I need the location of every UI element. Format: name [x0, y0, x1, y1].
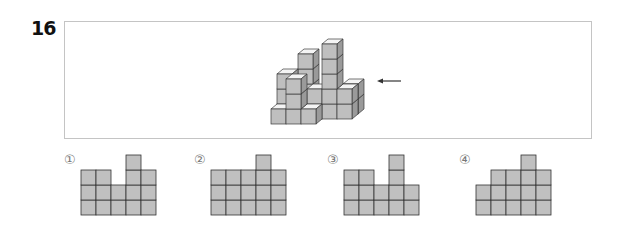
grid-cell	[491, 200, 506, 215]
grid-cell	[344, 170, 359, 185]
grid-cell	[389, 200, 404, 215]
option-3[interactable]: ③	[327, 150, 437, 225]
grid-cell	[344, 185, 359, 200]
grid-cell	[389, 155, 404, 170]
grid-cell	[491, 170, 506, 185]
grid-cell	[506, 200, 521, 215]
grid-cell	[126, 185, 141, 200]
option-1-grid	[64, 150, 174, 225]
question-number: 16	[31, 17, 55, 39]
grid-cell	[344, 200, 359, 215]
grid-cell	[126, 200, 141, 215]
grid-cell	[359, 185, 374, 200]
unit-cube	[301, 104, 322, 124]
grid-cell	[374, 200, 389, 215]
grid-cell	[256, 200, 271, 215]
grid-cell	[536, 170, 551, 185]
grid-cell	[96, 185, 111, 200]
grid-cell	[211, 185, 226, 200]
grid-cell	[141, 185, 156, 200]
grid-cell	[241, 185, 256, 200]
option-2-grid	[194, 150, 304, 225]
grid-cell	[256, 185, 271, 200]
grid-cell	[536, 200, 551, 215]
grid-cell	[359, 200, 374, 215]
grid-cell	[81, 170, 96, 185]
grid-cell	[404, 200, 419, 215]
grid-cell	[211, 170, 226, 185]
option-1[interactable]: ①	[64, 150, 174, 225]
grid-cell	[506, 185, 521, 200]
grid-cell	[81, 185, 96, 200]
option-3-grid	[327, 150, 437, 225]
grid-cell	[506, 170, 521, 185]
grid-cell	[491, 185, 506, 200]
grid-cell	[476, 185, 491, 200]
grid-cell	[521, 185, 536, 200]
grid-cell	[271, 185, 286, 200]
grid-cell	[226, 200, 241, 215]
grid-cell	[111, 185, 126, 200]
grid-cell	[389, 170, 404, 185]
grid-cell	[126, 155, 141, 170]
grid-cell	[536, 185, 551, 200]
grid-cell	[271, 170, 286, 185]
grid-cell	[404, 185, 419, 200]
unit-cube	[298, 49, 319, 69]
view-direction-arrow-icon	[377, 79, 401, 84]
grid-cell	[96, 200, 111, 215]
grid-cell	[359, 170, 374, 185]
unit-cube	[286, 74, 307, 94]
unit-cube	[337, 84, 358, 104]
grid-cell	[141, 200, 156, 215]
grid-cell	[141, 170, 156, 185]
grid-cell	[476, 200, 491, 215]
option-4-grid	[459, 150, 569, 225]
grid-cell	[521, 170, 536, 185]
figure-box	[64, 21, 592, 139]
option-2[interactable]: ②	[194, 150, 304, 225]
grid-cell	[226, 185, 241, 200]
grid-cell	[271, 200, 286, 215]
grid-cell	[111, 200, 126, 215]
grid-cell	[521, 155, 536, 170]
grid-cell	[241, 200, 256, 215]
grid-cell	[241, 170, 256, 185]
grid-cell	[226, 170, 241, 185]
grid-cell	[256, 155, 271, 170]
grid-cell	[211, 200, 226, 215]
grid-cell	[374, 185, 389, 200]
grid-cell	[96, 170, 111, 185]
unit-cube	[322, 39, 343, 59]
grid-cell	[521, 200, 536, 215]
grid-cell	[256, 170, 271, 185]
option-4[interactable]: ④	[459, 150, 569, 225]
grid-cell	[126, 170, 141, 185]
cube-structure-figure	[65, 22, 593, 140]
grid-cell	[389, 185, 404, 200]
grid-cell	[81, 200, 96, 215]
